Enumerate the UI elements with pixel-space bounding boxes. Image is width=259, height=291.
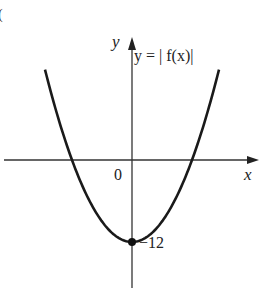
chart: −120xyy = | f(x)|( xyxy=(0,0,259,291)
x-axis-label: x xyxy=(243,165,252,184)
vertex-label: −12 xyxy=(139,234,164,251)
curve-label: y = | f(x)| xyxy=(134,47,193,65)
y-axis-label: y xyxy=(110,32,120,51)
corner-mark: ( xyxy=(0,7,3,23)
origin-label: 0 xyxy=(114,166,122,183)
x-axis-arrow xyxy=(247,156,259,164)
vertex-point xyxy=(128,238,136,246)
